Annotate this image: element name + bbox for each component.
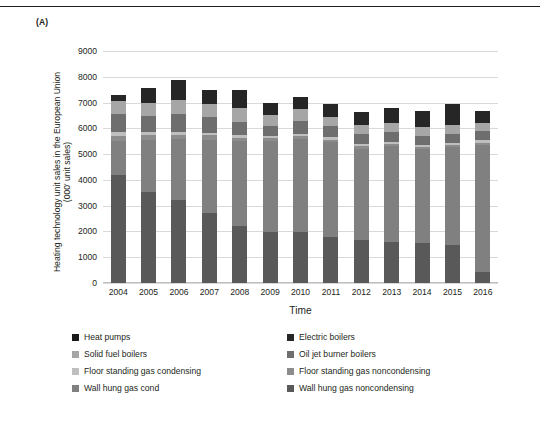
legend-item[interactable]: Wall hung gas noncondensing [287,384,492,393]
bar-segment[interactable] [202,213,217,283]
bar-segment[interactable] [293,232,308,283]
bar-segment[interactable] [323,237,338,283]
bar-segment[interactable] [293,139,308,232]
bar-segment[interactable] [171,100,186,114]
bar-segment[interactable] [293,109,308,121]
stacked-bar[interactable] [475,111,490,283]
bar-column[interactable] [255,51,285,283]
bar-segment[interactable] [354,125,369,134]
bar-segment[interactable] [263,232,278,283]
bar-segment[interactable] [202,104,217,117]
y-axis-tick-label: 4000 [51,176,97,185]
bar-segment[interactable] [171,80,186,100]
bar-column[interactable] [225,51,255,283]
stacked-bar[interactable] [293,97,308,283]
bar-segment[interactable] [111,101,126,114]
bar-segment[interactable] [232,141,247,226]
bar-segment[interactable] [354,134,369,144]
bar-column[interactable] [194,51,224,283]
bar-segment[interactable] [141,192,156,283]
bar-segment[interactable] [232,108,247,122]
bar-segment[interactable] [384,242,399,283]
bar-segment[interactable] [263,103,278,115]
legend-item[interactable]: Floor standing gas condensing [72,367,277,376]
bar-segment[interactable] [323,104,338,117]
bar-segment[interactable] [384,108,399,123]
bar-segment[interactable] [415,149,430,242]
bar-segment[interactable] [141,88,156,103]
bar-segment[interactable] [475,145,490,272]
bar-column[interactable] [437,51,467,283]
bar-segment[interactable] [232,122,247,135]
bar-segment[interactable] [202,117,217,132]
bar-segment[interactable] [293,121,308,134]
bar-segment[interactable] [475,111,490,123]
bar-segment[interactable] [111,141,126,175]
bar-segment[interactable] [354,112,369,125]
bar-segment[interactable] [202,140,217,213]
legend-swatch-icon [72,385,79,392]
bar-column[interactable] [316,51,346,283]
bar-segment[interactable] [323,142,338,236]
bar-column[interactable] [407,51,437,283]
bar-segment[interactable] [475,123,490,131]
bar-segment[interactable] [415,136,430,145]
stacked-bar[interactable] [445,104,460,283]
bar-segment[interactable] [171,200,186,283]
stacked-bar[interactable] [232,90,247,283]
bar-segment[interactable] [384,146,399,242]
bar-segment[interactable] [141,116,156,132]
legend-item[interactable]: Heat pumps [72,333,277,342]
bar-segment[interactable] [445,147,460,245]
bar-segment[interactable] [445,245,460,283]
bar-segment[interactable] [111,114,126,132]
stacked-bar[interactable] [323,104,338,283]
bar-column[interactable] [346,51,376,283]
stacked-bar[interactable] [415,111,430,283]
bar-segment[interactable] [415,243,430,283]
bar-column[interactable] [468,51,498,283]
bar-column[interactable] [285,51,315,283]
stacked-bar[interactable] [384,108,399,283]
stacked-bar[interactable] [354,112,369,283]
bar-segment[interactable] [415,111,430,127]
bar-segment[interactable] [323,126,338,137]
bar-segment[interactable] [141,103,156,116]
legend-item[interactable]: Floor standing gas noncondensing [287,367,492,376]
bar-segment[interactable] [141,140,156,192]
bar-segment[interactable] [263,141,278,232]
bar-segment[interactable] [171,114,186,132]
bar-segment[interactable] [171,139,186,199]
stacked-bar[interactable] [171,80,186,283]
bar-segment[interactable] [323,117,338,127]
bar-segment[interactable] [354,149,369,240]
bar-segment[interactable] [293,97,308,109]
legend-item[interactable]: Oil jet burner boilers [287,350,492,359]
bar-segment[interactable] [445,134,460,143]
bar-column[interactable] [103,51,133,283]
legend-item[interactable]: Wall hung gas cond [72,384,277,393]
bar-segment[interactable] [475,272,490,283]
bar-segment[interactable] [475,131,490,140]
bar-segment[interactable] [445,104,460,125]
bar-segment[interactable] [232,90,247,108]
bar-segment[interactable] [445,125,460,134]
bar-segment[interactable] [202,90,217,104]
bar-segment[interactable] [111,175,126,283]
legend-item[interactable]: Electric boilers [287,333,492,342]
bar-segment[interactable] [384,123,399,132]
bar-segment[interactable] [415,127,430,135]
stacked-bar[interactable] [263,103,278,283]
bar-column[interactable] [377,51,407,283]
bar-segment[interactable] [384,132,399,142]
bar-column[interactable] [164,51,194,283]
bar-segment[interactable] [354,240,369,283]
bar-segment[interactable] [232,226,247,283]
stacked-bar[interactable] [111,95,126,283]
stacked-bar[interactable] [202,90,217,283]
bar-segment[interactable] [263,126,278,137]
legend-item[interactable]: Solid fuel boilers [72,350,277,359]
stacked-bar[interactable] [141,88,156,283]
bar-column[interactable] [133,51,163,283]
bar-segment[interactable] [263,115,278,126]
